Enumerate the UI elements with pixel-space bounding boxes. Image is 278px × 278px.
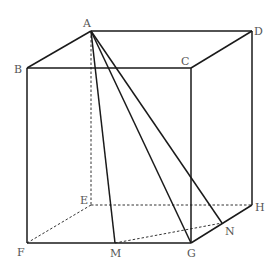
label-F: F bbox=[17, 246, 25, 259]
segment-AN bbox=[91, 31, 222, 223]
label-C: C bbox=[181, 55, 189, 68]
label-G: G bbox=[187, 247, 196, 260]
edge-AB bbox=[27, 31, 91, 68]
label-H: H bbox=[255, 201, 265, 214]
label-M: M bbox=[110, 247, 121, 260]
cube-diagram: A B C D E F G H M N bbox=[0, 0, 278, 278]
segment-AG bbox=[91, 31, 191, 243]
label-E: E bbox=[80, 194, 88, 207]
edge-EF bbox=[27, 205, 91, 243]
edge-CD bbox=[191, 31, 252, 68]
label-B: B bbox=[14, 63, 22, 76]
label-D: D bbox=[254, 25, 263, 38]
edge-GH bbox=[191, 205, 252, 243]
label-A: A bbox=[82, 17, 92, 30]
segment-AM bbox=[91, 31, 115, 243]
label-N: N bbox=[225, 225, 235, 238]
